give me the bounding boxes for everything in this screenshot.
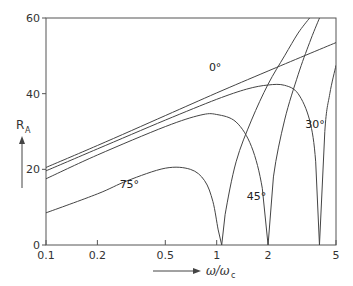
y-axis-label-sub: A bbox=[25, 126, 31, 135]
chart-canvas: 0.10.20.5125 0204060 0°30°45°75° R A ω/ω… bbox=[0, 0, 353, 286]
x-tick-label: 0.2 bbox=[89, 249, 107, 262]
curve-label-0deg: 0° bbox=[209, 61, 222, 74]
x-axis-label-sub: c bbox=[231, 271, 235, 280]
x-tick-label: 2 bbox=[265, 249, 272, 262]
plot-frame bbox=[46, 18, 336, 245]
curve-labels: 0°30°45°75° bbox=[120, 61, 325, 203]
y-axis-label: R A bbox=[16, 118, 31, 188]
curves bbox=[46, 18, 336, 245]
y-axis-label-main: R bbox=[16, 118, 24, 132]
y-tick-label: 20 bbox=[26, 163, 40, 176]
x-tick-label: 1 bbox=[213, 249, 220, 262]
curve-45deg bbox=[46, 18, 320, 245]
curve-label-45deg: 45° bbox=[247, 190, 267, 203]
x-axis-label-main: ω/ω bbox=[206, 264, 230, 278]
x-axis-label: ω/ω c bbox=[153, 264, 235, 280]
curve-0deg bbox=[46, 43, 336, 168]
y-tick-label: 40 bbox=[26, 88, 40, 101]
plot-border bbox=[46, 18, 336, 245]
y-tick-label: 60 bbox=[26, 12, 40, 25]
arrow-up-icon bbox=[19, 136, 25, 144]
y-tick-label: 0 bbox=[33, 239, 40, 252]
curve-label-75deg: 75° bbox=[120, 178, 139, 191]
arrow-right-icon bbox=[193, 268, 201, 274]
curve-75deg bbox=[46, 18, 310, 245]
curve-label-30deg: 30° bbox=[305, 118, 325, 131]
x-tick-label: 5 bbox=[333, 249, 340, 262]
x-tick-label: 0.5 bbox=[157, 249, 175, 262]
x-axis-ticks: 0.10.20.5125 bbox=[37, 240, 339, 262]
